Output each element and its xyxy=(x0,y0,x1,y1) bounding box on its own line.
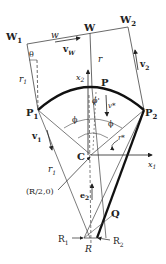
label-x2: x2 xyxy=(76,73,85,83)
label-R2: R2 xyxy=(113,236,124,248)
label-C: C xyxy=(77,151,85,162)
theta-dashed-line xyxy=(37,60,38,108)
kinematics-diagram: W1 w W W2 vW v2 θ r1 r x2 P P1 P2 ϕ' v* … xyxy=(0,0,166,264)
v1star-arrow xyxy=(47,130,52,150)
label-coord: (R/2,0) xyxy=(26,187,54,196)
label-x1: x1 xyxy=(148,160,156,170)
label-vstar: v* xyxy=(108,102,116,110)
label-phi-prime: ϕ' xyxy=(92,96,100,105)
vstar-arrow xyxy=(106,95,107,116)
p1-c-line xyxy=(38,110,91,155)
label-v1star: v1 xyxy=(31,131,41,143)
label-P: P xyxy=(101,77,109,88)
label-P1: P1 xyxy=(26,107,39,121)
thick-arc xyxy=(38,87,144,110)
label-W1: W1 xyxy=(5,31,22,45)
p-r2-line xyxy=(92,88,106,238)
label-w: w xyxy=(51,30,59,40)
label-r1star: r1 xyxy=(48,164,56,176)
label-theta: θ xyxy=(29,50,34,59)
phi-inner-arc xyxy=(78,133,108,138)
label-P2: P2 xyxy=(145,107,158,121)
label-v2: v2 xyxy=(139,59,149,71)
label-phi-right: ϕ xyxy=(108,119,114,128)
label-rstar: r* xyxy=(118,134,125,142)
label-vW: vW xyxy=(62,44,76,56)
label-W: W xyxy=(83,22,96,33)
r2-pointer-arrow xyxy=(98,238,110,240)
label-R1: R1 xyxy=(58,234,69,246)
label-r1: r1 xyxy=(19,74,27,85)
label-r: r xyxy=(98,54,103,64)
coord-pointer-arrow xyxy=(58,157,90,190)
label-e2: e2 xyxy=(80,190,89,201)
label-phi-left: ϕ xyxy=(72,115,78,124)
label-W2: W2 xyxy=(119,14,136,28)
top-bar-line xyxy=(27,27,128,44)
thick-p2-r2-line xyxy=(97,110,144,238)
w-p-line xyxy=(90,33,92,88)
p1-r1-line xyxy=(38,110,90,238)
label-R: R xyxy=(84,244,92,254)
label-Q: Q xyxy=(111,208,120,219)
